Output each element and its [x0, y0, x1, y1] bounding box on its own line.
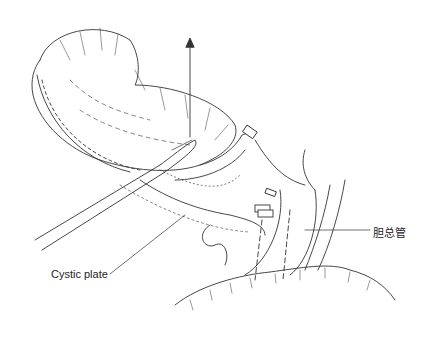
cystic-plate-label: Cystic plate: [51, 268, 108, 280]
surgical-illustration: [0, 0, 428, 337]
cystic-plate-leader: [110, 215, 185, 274]
gallbladder: [32, 30, 236, 171]
duodenum: [175, 266, 395, 305]
common-bile-duct-label: 胆总管: [373, 224, 406, 240]
grasper: [35, 165, 165, 250]
